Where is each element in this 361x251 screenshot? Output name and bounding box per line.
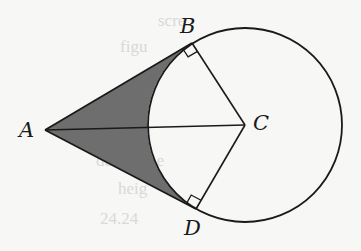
radius-cb [192,43,245,125]
point-label-d: D [184,218,201,239]
radius-cd [196,125,245,209]
point-label-c: C [253,113,269,134]
point-label-b: B [180,16,195,37]
point-label-a: A [19,120,34,141]
tangent-circle-diagram: scre figu is ma determine heig 24.24 A B… [0,0,361,251]
right-angle-marker-d [186,195,201,204]
